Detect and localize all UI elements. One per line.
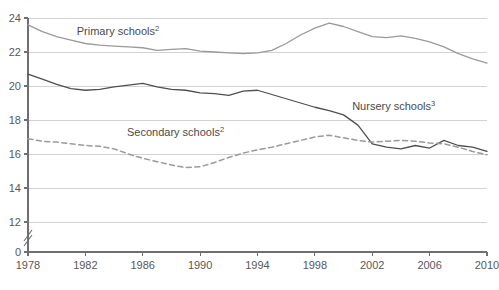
chart-canvas: 242220181614120 197819821986199019941998… [0, 0, 499, 290]
y-axis-ticks: 242220181614120 [9, 12, 28, 258]
y-tick-label: 24 [9, 12, 21, 24]
y-tick-label: 14 [9, 182, 21, 194]
x-tick-label: 1978 [16, 259, 40, 271]
x-tick-label: 2006 [417, 259, 441, 271]
series-labels: Primary schools2Nursery schools3Secondar… [77, 24, 435, 138]
x-tick-label: 2010 [475, 259, 499, 271]
line-chart: 242220181614120 197819821986199019941998… [0, 0, 499, 290]
x-tick-label: 1998 [303, 259, 327, 271]
data-series [28, 23, 487, 168]
x-tick-label: 1994 [245, 259, 269, 271]
x-axis-ticks: 197819821986199019941998200220062010 [16, 252, 499, 271]
y-tick-label: 12 [9, 216, 21, 228]
x-tick-label: 1990 [188, 259, 212, 271]
x-tick-label: 2002 [360, 259, 384, 271]
x-tick-label: 1986 [131, 259, 155, 271]
y-tick-label: 18 [9, 114, 21, 126]
y-tick-label: 22 [9, 46, 21, 58]
series-label-secondary-schools: Secondary schools2 [127, 125, 224, 138]
series-line-secondary-schools [28, 135, 487, 167]
y-tick-label-zero: 0 [15, 246, 21, 258]
x-tick-label: 1982 [73, 259, 97, 271]
series-label-nursery-schools: Nursery schools3 [352, 99, 435, 112]
y-tick-label: 20 [9, 80, 21, 92]
series-label-primary-schools: Primary schools2 [77, 24, 159, 37]
gridlines [28, 18, 487, 222]
y-tick-label: 16 [9, 148, 21, 160]
